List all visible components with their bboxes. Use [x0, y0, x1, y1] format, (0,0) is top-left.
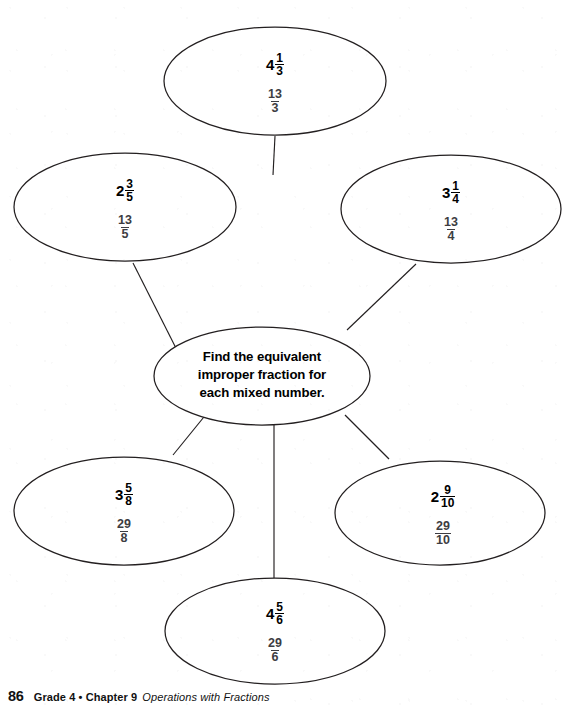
center-prompt-line-3: each mixed number.	[164, 384, 360, 402]
answer-fraction-bottom: 29 6	[267, 637, 283, 664]
node-content-upper-right: 3 1 4 13 4	[391, 180, 511, 243]
mixed-denominator-bottom: 6	[275, 613, 284, 626]
node-content-lower-right: 2 9 10 29 10	[383, 484, 503, 547]
page-number: 86	[8, 688, 24, 704]
answer-numerator-upper-left: 13	[117, 214, 133, 227]
mixed-whole-lower-right: 2	[431, 489, 439, 504]
mixed-fraction-bottom: 5 6	[275, 601, 284, 626]
center-prompt-line-2: improper fraction for	[164, 366, 360, 384]
mixed-fraction-lower-right: 9 10	[440, 484, 455, 509]
answer-denominator-upper-right: 4	[447, 229, 456, 243]
mixed-numerator-top: 1	[275, 52, 284, 64]
mixed-whole-upper-right: 3	[442, 185, 450, 200]
worksheet-page: 4 1 3 13 3 2 3 5 13 5	[0, 0, 573, 712]
node-content-top: 4 1 3 13 3	[215, 52, 335, 115]
connector-lower-left-to-center	[173, 412, 208, 455]
mixed-numerator-upper-right: 1	[451, 180, 460, 192]
answer-slot-bottom[interactable]: 29 6	[215, 637, 335, 664]
answer-numerator-top: 13	[267, 88, 283, 101]
answer-fraction-upper-right: 13 4	[443, 216, 459, 243]
mixed-numerator-bottom: 5	[275, 601, 284, 613]
page-footer: 86 Grade 4 • Chapter 9 Operations with F…	[8, 688, 270, 704]
mixed-denominator-lower-left: 8	[124, 494, 133, 507]
answer-slot-lower-right[interactable]: 29 10	[383, 520, 503, 547]
mixed-number-bottom: 4 5 6	[266, 601, 284, 626]
answer-slot-upper-left[interactable]: 13 5	[65, 214, 185, 241]
answer-fraction-lower-right: 29 10	[435, 520, 451, 547]
connector-top-to-center	[273, 136, 275, 175]
mixed-denominator-upper-left: 5	[125, 190, 134, 203]
answer-numerator-bottom: 29	[267, 637, 283, 650]
mixed-numerator-upper-left: 3	[125, 178, 134, 190]
answer-fraction-top: 13 3	[267, 88, 283, 115]
mixed-number-upper-left: 2 3 5	[116, 178, 134, 203]
mixed-numerator-lower-right: 9	[443, 484, 452, 496]
answer-numerator-upper-right: 13	[443, 216, 459, 229]
answer-denominator-upper-left: 5	[121, 227, 130, 241]
mixed-whole-lower-left: 3	[115, 487, 123, 502]
mixed-number-lower-left: 3 5 8	[115, 482, 133, 507]
mixed-fraction-upper-right: 1 4	[451, 180, 460, 205]
answer-denominator-lower-right: 10	[435, 533, 451, 547]
center-prompt-line-1: Find the equivalent	[164, 348, 360, 366]
mixed-numerator-lower-left: 5	[124, 482, 133, 494]
mixed-fraction-lower-left: 5 8	[124, 482, 133, 507]
answer-fraction-upper-left: 13 5	[117, 214, 133, 241]
mixed-denominator-lower-right: 10	[440, 496, 455, 509]
mixed-number-top: 4 1 3	[266, 52, 284, 77]
mixed-denominator-upper-right: 4	[451, 192, 460, 205]
mixed-denominator-top: 3	[275, 64, 284, 77]
grade-chapter-label: Grade 4 • Chapter 9	[34, 691, 138, 703]
node-content-lower-left: 3 5 8 29 8	[64, 482, 184, 545]
mixed-whole-top: 4	[266, 57, 274, 72]
answer-numerator-lower-right: 29	[435, 520, 451, 533]
center-prompt: Find the equivalent improper fraction fo…	[164, 348, 360, 402]
mixed-number-upper-right: 3 1 4	[442, 180, 460, 205]
answer-slot-upper-right[interactable]: 13 4	[391, 216, 511, 243]
answer-slot-top[interactable]: 13 3	[215, 88, 335, 115]
answer-denominator-top: 3	[271, 101, 280, 115]
answer-fraction-lower-left: 29 8	[116, 518, 132, 545]
answer-numerator-lower-left: 29	[116, 518, 132, 531]
connector-upper-right-to-center	[347, 264, 416, 330]
mixed-number-lower-right: 2 9 10	[431, 484, 456, 509]
mixed-whole-bottom: 4	[266, 606, 274, 621]
node-content-bottom: 4 5 6 29 6	[215, 601, 335, 664]
answer-slot-lower-left[interactable]: 29 8	[64, 518, 184, 545]
mixed-whole-upper-left: 2	[116, 183, 124, 198]
answer-denominator-bottom: 6	[271, 650, 280, 664]
node-content-upper-left: 2 3 5 13 5	[65, 178, 185, 241]
mixed-fraction-top: 1 3	[275, 52, 284, 77]
subject-label: Operations with Fractions	[142, 691, 269, 703]
connector-lower-right-to-center	[345, 415, 389, 459]
answer-denominator-lower-left: 8	[120, 531, 129, 545]
mixed-fraction-upper-left: 3 5	[125, 178, 134, 203]
